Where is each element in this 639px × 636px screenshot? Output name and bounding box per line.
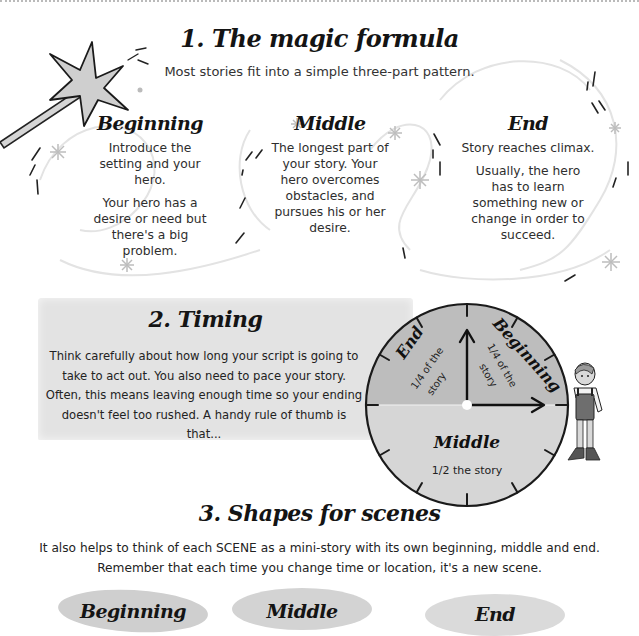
column-text: Story reaches climax. Usually, the hero … <box>458 140 598 243</box>
column-paragraph: Introduce the setting and your hero. <box>80 140 220 188</box>
formula-column-end: End Story reaches climax. Usually, the h… <box>458 112 598 250</box>
clock-label-middle: Middle <box>433 432 501 452</box>
section3-body-line1: It also helps to think of each SCENE as … <box>0 538 639 558</box>
clock-diagram: End 1/4 of the story Beginning 1/4 of th… <box>362 300 572 510</box>
section2-title: 2. Timing <box>38 306 373 332</box>
boy-character-illustration <box>562 360 612 470</box>
column-title: Beginning <box>80 112 220 134</box>
section3-title: 3. Shapes for scenes <box>0 500 639 526</box>
section1-subtitle: Most stories fit into a simple three-par… <box>0 64 639 79</box>
formula-column-beginning: Beginning Introduce the setting and your… <box>80 112 220 266</box>
column-text: Introduce the setting and your hero. You… <box>80 140 220 259</box>
column-paragraph: The longest part of your story. Your her… <box>260 140 400 236</box>
column-title: Middle <box>260 112 400 134</box>
scene-shape-label: End <box>425 603 565 625</box>
scene-shape-label: Middle <box>232 600 372 622</box>
column-text: The longest part of your story. Your her… <box>260 140 400 236</box>
section1-title: 1. The magic formula <box>0 24 639 53</box>
column-paragraph: Story reaches climax. <box>458 140 598 156</box>
scene-shape-label: Beginning <box>58 600 208 622</box>
column-paragraph: Usually, the hero has to learn something… <box>458 163 598 243</box>
formula-column-middle: Middle The longest part of your story. Y… <box>260 112 400 243</box>
column-title: End <box>458 112 598 134</box>
clock-portion-middle: 1/2 the story <box>432 464 503 477</box>
column-paragraph: Your hero has a desire or need but there… <box>80 195 220 259</box>
section2-body: Think carefully about how long your scri… <box>44 347 364 445</box>
section3-body-line2: Remember that each time you change time … <box>0 558 639 578</box>
cut-off-text-line <box>0 0 639 8</box>
section3-body: It also helps to think of each SCENE as … <box>0 538 639 578</box>
